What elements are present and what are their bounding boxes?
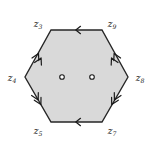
vertex-label-z5: z5 [33, 126, 43, 137]
vertex-label-z3: z3 [33, 19, 43, 30]
vertex-label-z4: z4 [7, 73, 17, 84]
vertex-label-z9: z9 [107, 19, 117, 30]
hexagon-shape [25, 30, 128, 122]
vertex-label-z7: z7 [107, 126, 117, 137]
hexagon-diagram: z3 z9 z4 z8 z5 z7 [0, 0, 153, 149]
interior-marked-point-2 [90, 75, 95, 80]
vertex-label-z8: z8 [135, 73, 145, 84]
interior-marked-point-1 [60, 75, 65, 80]
diagram-canvas: z3 z9 z4 z8 z5 z7 [0, 0, 153, 149]
